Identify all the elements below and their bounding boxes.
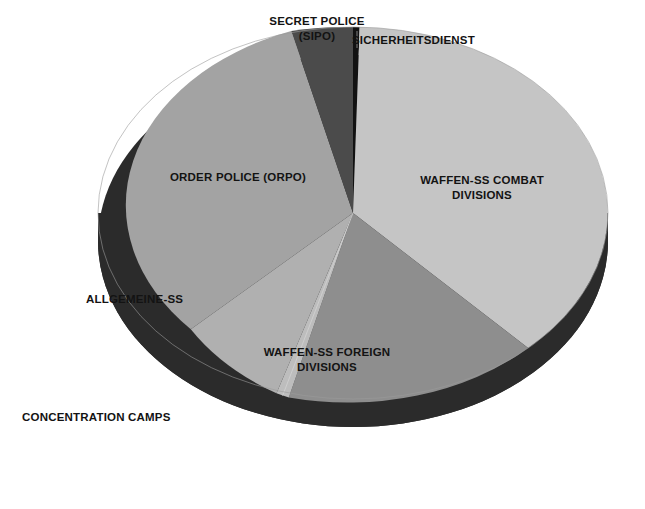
pie-chart-svg bbox=[0, 0, 645, 509]
pie-chart: SECRET POLICE (SIPO) SICHERHEITSDIENST W… bbox=[0, 0, 645, 509]
